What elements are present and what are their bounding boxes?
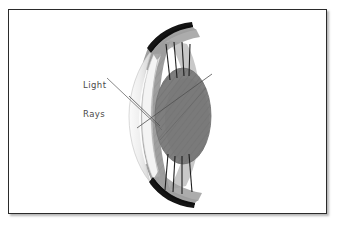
eye-cross-section-svg <box>0 0 339 231</box>
upper-eyelid-group <box>147 22 200 60</box>
lens-group <box>155 68 211 164</box>
light-rays-label: Light Rays <box>83 62 106 138</box>
lower-eyelid-group <box>149 170 202 208</box>
screenshot-canvas: Light Rays <box>0 0 339 231</box>
eye-diagram-figure <box>0 0 339 231</box>
light-rays-label-line2: Rays <box>83 110 106 120</box>
light-rays-label-line1: Light <box>83 81 106 91</box>
lens-shading <box>165 78 209 162</box>
